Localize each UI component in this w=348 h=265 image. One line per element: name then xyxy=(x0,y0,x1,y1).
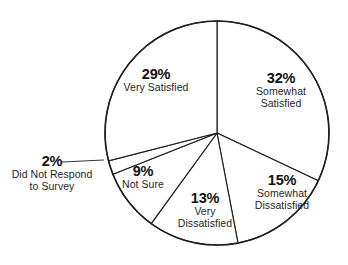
slice-category-not-sure: Not Sure xyxy=(112,179,174,191)
slice-category-somewhat-satisfied-line2: Satisfied xyxy=(238,98,324,110)
pie-chart: 29% Very Satisfied 32% Somewhat Satisfie… xyxy=(0,0,348,265)
slice-label-somewhat-satisfied: 32% Somewhat Satisfied xyxy=(238,70,324,110)
slice-category-did-not-respond-line2: to Survey xyxy=(2,181,102,193)
slice-percent-somewhat-dissatisfied: 15% xyxy=(236,172,328,188)
slice-percent-very-satisfied: 29% xyxy=(106,66,206,82)
slice-percent-somewhat-satisfied: 32% xyxy=(238,70,324,86)
slice-label-very-dissatisfied: 13% Very Dissatisfied xyxy=(168,190,242,230)
slice-percent-not-sure: 9% xyxy=(112,163,174,179)
slice-category-very-dissatisfied-line2: Dissatisfied xyxy=(168,218,242,230)
slice-percent-did-not-respond: 2% xyxy=(2,153,102,169)
slice-category-somewhat-dissatisfied-line2: Dissatisfied xyxy=(236,200,328,212)
slice-category-very-satisfied: Very Satisfied xyxy=(106,82,206,94)
slice-label-somewhat-dissatisfied: 15% Somewhat Dissatisfied xyxy=(236,172,328,212)
slice-label-very-satisfied: 29% Very Satisfied xyxy=(106,66,206,94)
slice-percent-very-dissatisfied: 13% xyxy=(168,190,242,206)
slice-label-did-not-respond: 2% Did Not Respond to Survey xyxy=(2,153,102,193)
slice-label-not-sure: 9% Not Sure xyxy=(112,163,174,191)
